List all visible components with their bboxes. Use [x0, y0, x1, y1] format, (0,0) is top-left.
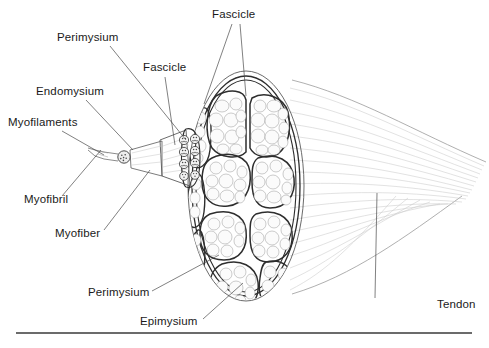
leader-fascicle-top-right	[240, 24, 246, 96]
label-myofibril: Myofibril	[24, 193, 68, 205]
diagram-canvas: FasciclePerimysiumFascicleEndomysiumMyof…	[0, 0, 489, 348]
muscle-belly-cross-section	[186, 71, 304, 310]
fascicle-group	[186, 91, 294, 310]
leader-tendon	[375, 193, 377, 298]
magnification-chain	[88, 129, 200, 188]
myofibril-detail	[88, 148, 130, 163]
label-epimysium: Epimysium	[140, 315, 198, 327]
tendon-fiber-bundle	[290, 88, 484, 290]
label-perimysium-top: Perimysium	[57, 31, 119, 43]
label-myofiber: Myofiber	[55, 227, 100, 239]
label-myofilaments: Myofilaments	[8, 116, 78, 128]
myofilament-thread-upper	[88, 148, 118, 154]
tendon-upper-edge	[292, 80, 486, 162]
leader-myofilaments	[62, 131, 104, 155]
label-fascicle-top: Fascicle	[212, 8, 255, 20]
leader-endomysium	[86, 100, 133, 150]
tendon-group	[290, 80, 486, 294]
muscle-anatomy-figure: FasciclePerimysiumFascicleEndomysiumMyof…	[0, 0, 489, 348]
label-perimysium-bottom: Perimysium	[88, 286, 150, 298]
label-tendon: Tendon	[437, 298, 476, 310]
leader-fascicle-mid	[165, 77, 175, 145]
label-endomysium: Endomysium	[36, 85, 104, 97]
leader-myofiber	[104, 170, 150, 230]
leader-perimysium-bottom	[152, 255, 219, 291]
label-fascicle-mid: Fascicle	[143, 61, 186, 73]
leader-myofibril	[62, 150, 101, 196]
